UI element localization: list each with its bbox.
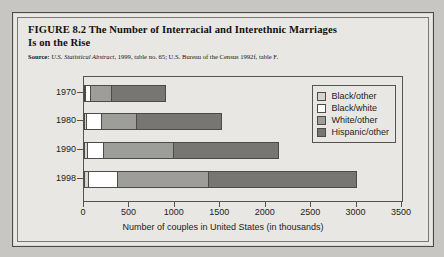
legend-item-black-other[interactable]: Black/other xyxy=(317,90,389,102)
x-axis-label-1500: 1500 xyxy=(199,207,239,217)
bar-1970 xyxy=(84,85,166,102)
figure-inner-border: FIGURE 8.2 The Number of Interracial and… xyxy=(17,17,429,242)
figure-title: FIGURE 8.2 The Number of Interracial and… xyxy=(28,24,418,49)
x-axis-label-1000: 1000 xyxy=(154,207,194,217)
x-axis-label-500: 500 xyxy=(108,207,148,217)
legend-label: White/other xyxy=(331,115,377,125)
plot-area: Black/otherBlack/whiteWhite/otherHispani… xyxy=(83,76,403,202)
x-axis-label-3500: 3500 xyxy=(381,207,421,217)
x-axis-label-3000: 3000 xyxy=(336,207,376,217)
bar-segment-1980-black-white xyxy=(86,113,101,130)
bar-segment-1998-white-other xyxy=(117,171,208,188)
figure-plate: FIGURE 8.2 The Number of Interracial and… xyxy=(12,12,434,247)
bar-segment-1990-hispanic-other xyxy=(173,142,279,159)
bar-segment-1998-black-white xyxy=(88,171,117,188)
bar-segment-1980-hispanic-other xyxy=(136,113,222,130)
legend-item-white-other[interactable]: White/other xyxy=(317,114,389,126)
x-axis-title: Number of couples in United States (in t… xyxy=(24,222,422,232)
x-axis-label-2000: 2000 xyxy=(245,207,285,217)
source-label: Source: xyxy=(28,53,50,60)
chart: 1970198019901998 Black/otherBlack/whiteW… xyxy=(24,72,422,240)
legend-label: Black/white xyxy=(331,103,377,113)
bar-segment-1990-black-white xyxy=(87,142,103,159)
legend-swatch-icon xyxy=(317,116,326,125)
x-axis: 0500100015002000250030003500 xyxy=(83,202,403,222)
figure-source: Source: U.S. Statistical Abstract, 1999,… xyxy=(28,53,418,61)
y-axis-label-1998: 1998 xyxy=(24,173,76,183)
x-axis-label-2500: 2500 xyxy=(290,207,330,217)
y-axis-label-1970: 1970 xyxy=(24,87,76,97)
bar-segment-1970-white-other xyxy=(90,85,111,102)
source-rest: 1999, table no. 65; U.S. Bureau of the C… xyxy=(116,53,278,60)
source-italic: U.S. Statistical Abstract, xyxy=(51,53,116,60)
legend-item-hispanic-other[interactable]: Hispanic/other xyxy=(317,126,389,138)
x-axis-label-0: 0 xyxy=(63,207,103,217)
figure-header: FIGURE 8.2 The Number of Interracial and… xyxy=(28,24,418,61)
legend-swatch-icon xyxy=(317,92,326,101)
figure-title-line1: FIGURE 8.2 The Number of Interracial and… xyxy=(28,24,337,35)
bar-segment-1998-hispanic-other xyxy=(208,171,358,188)
legend-label: Black/other xyxy=(331,91,376,101)
bar-1980 xyxy=(84,113,222,130)
legend-label: Hispanic/other xyxy=(331,127,389,137)
legend-swatch-icon xyxy=(317,128,326,137)
y-axis-label-1990: 1990 xyxy=(24,144,76,154)
chart-legend: Black/otherBlack/whiteWhite/otherHispani… xyxy=(312,85,396,143)
figure-title-line2: Is on the Rise xyxy=(28,37,90,48)
bar-segment-1980-white-other xyxy=(101,113,136,130)
bar-1998 xyxy=(84,171,357,188)
bar-1990 xyxy=(84,142,279,159)
legend-swatch-icon xyxy=(317,104,326,113)
bar-segment-1970-hispanic-other xyxy=(111,85,166,102)
legend-item-black-white[interactable]: Black/white xyxy=(317,102,389,114)
y-axis-label-1980: 1980 xyxy=(24,115,76,125)
bar-segment-1990-white-other xyxy=(103,142,173,159)
